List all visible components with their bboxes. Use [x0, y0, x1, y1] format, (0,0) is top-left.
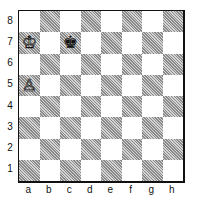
- rank-label: 3: [5, 121, 15, 132]
- square-c5[interactable]: [60, 75, 81, 96]
- square-h8[interactable]: [163, 11, 184, 32]
- square-f2[interactable]: [122, 139, 143, 160]
- square-f5[interactable]: [122, 75, 143, 96]
- square-f4[interactable]: [122, 96, 143, 117]
- square-a4[interactable]: [19, 96, 40, 117]
- square-d1[interactable]: [81, 160, 102, 181]
- square-e5[interactable]: [101, 75, 122, 96]
- rank-label: 2: [5, 142, 15, 153]
- file-label: c: [59, 184, 79, 195]
- square-c4[interactable]: [60, 96, 81, 117]
- rank-label: 5: [5, 78, 15, 89]
- square-b4[interactable]: [40, 96, 61, 117]
- rank-label: 1: [5, 163, 15, 174]
- rank-label: 6: [5, 57, 15, 68]
- square-c3[interactable]: [60, 117, 81, 138]
- square-f8[interactable]: [122, 11, 143, 32]
- file-label: h: [162, 184, 182, 195]
- square-e2[interactable]: [101, 139, 122, 160]
- square-f7[interactable]: [122, 32, 143, 53]
- square-g3[interactable]: [142, 117, 163, 138]
- square-h3[interactable]: [163, 117, 184, 138]
- square-d4[interactable]: [81, 96, 102, 117]
- square-e3[interactable]: [101, 117, 122, 138]
- square-b5[interactable]: [40, 75, 61, 96]
- black-king-icon[interactable]: ♚: [63, 34, 78, 51]
- square-e1[interactable]: [101, 160, 122, 181]
- square-g2[interactable]: [142, 139, 163, 160]
- square-c6[interactable]: [60, 54, 81, 75]
- square-b2[interactable]: [40, 139, 61, 160]
- square-d3[interactable]: [81, 117, 102, 138]
- square-f1[interactable]: [122, 160, 143, 181]
- white-pawn-icon[interactable]: ♙: [22, 77, 37, 94]
- square-g6[interactable]: [142, 54, 163, 75]
- square-d2[interactable]: [81, 139, 102, 160]
- square-a6[interactable]: [19, 54, 40, 75]
- square-d5[interactable]: [81, 75, 102, 96]
- rank-label: 8: [5, 15, 15, 26]
- square-b6[interactable]: [40, 54, 61, 75]
- square-c8[interactable]: [60, 11, 81, 32]
- square-g5[interactable]: [142, 75, 163, 96]
- file-label: d: [80, 184, 100, 195]
- square-a3[interactable]: [19, 117, 40, 138]
- square-b8[interactable]: [40, 11, 61, 32]
- square-b1[interactable]: [40, 160, 61, 181]
- square-g4[interactable]: [142, 96, 163, 117]
- square-g1[interactable]: [142, 160, 163, 181]
- square-e8[interactable]: [101, 11, 122, 32]
- square-h6[interactable]: [163, 54, 184, 75]
- rank-label: 4: [5, 100, 15, 111]
- square-c2[interactable]: [60, 139, 81, 160]
- rank-label: 7: [5, 36, 15, 47]
- square-e6[interactable]: [101, 54, 122, 75]
- square-h1[interactable]: [163, 160, 184, 181]
- square-a5[interactable]: ♙: [19, 75, 40, 96]
- file-label: a: [18, 184, 38, 195]
- square-h7[interactable]: [163, 32, 184, 53]
- square-b3[interactable]: [40, 117, 61, 138]
- file-label: g: [141, 184, 161, 195]
- square-a8[interactable]: [19, 11, 40, 32]
- square-d6[interactable]: [81, 54, 102, 75]
- square-h4[interactable]: [163, 96, 184, 117]
- file-label: f: [121, 184, 141, 195]
- square-b7[interactable]: [40, 32, 61, 53]
- square-e7[interactable]: [101, 32, 122, 53]
- chess-board: ♔♚♙: [18, 10, 185, 183]
- square-d7[interactable]: [81, 32, 102, 53]
- square-h2[interactable]: [163, 139, 184, 160]
- square-a7[interactable]: ♔: [19, 32, 40, 53]
- file-label: e: [100, 184, 120, 195]
- file-label: b: [39, 184, 59, 195]
- square-d8[interactable]: [81, 11, 102, 32]
- square-h5[interactable]: [163, 75, 184, 96]
- square-e4[interactable]: [101, 96, 122, 117]
- square-a2[interactable]: [19, 139, 40, 160]
- white-king-icon[interactable]: ♔: [22, 34, 37, 51]
- square-g8[interactable]: [142, 11, 163, 32]
- square-c1[interactable]: [60, 160, 81, 181]
- square-c7[interactable]: ♚: [60, 32, 81, 53]
- square-f6[interactable]: [122, 54, 143, 75]
- square-f3[interactable]: [122, 117, 143, 138]
- square-a1[interactable]: [19, 160, 40, 181]
- square-g7[interactable]: [142, 32, 163, 53]
